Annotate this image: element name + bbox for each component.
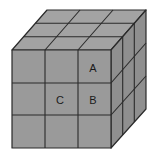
label-c: C	[56, 95, 64, 106]
label-b: B	[89, 95, 96, 106]
cube-drawing	[0, 0, 158, 158]
cube-diagram: A B C	[0, 0, 158, 158]
label-a: A	[89, 63, 96, 74]
